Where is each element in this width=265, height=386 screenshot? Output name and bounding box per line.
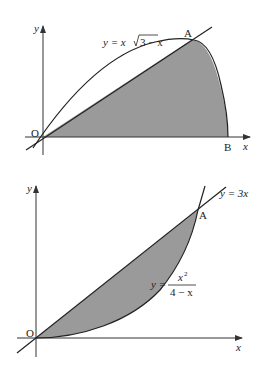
shaded-region-1: [43, 40, 228, 137]
figure-2: y x O A y = 3x y = x 2 4 − x: [17, 182, 248, 357]
point-B-label-1: B: [224, 141, 231, 153]
svg-text:3 − x: 3 − x: [140, 36, 163, 48]
point-A-label-2: A: [199, 209, 207, 221]
y-axis-label-1: y: [33, 22, 39, 34]
diagram-canvas: y x O A B y = x 3 − x y x O A y = 3x y =…: [0, 0, 265, 386]
origin-label-2: O: [26, 327, 34, 339]
svg-text:y = x: y = x: [102, 36, 126, 48]
origin-label-1: O: [31, 127, 39, 139]
figure-1: y x O A B y = x 3 − x: [25, 22, 250, 155]
x-axis-label-1: x: [242, 140, 248, 152]
x-axis-label-2: x: [235, 341, 241, 353]
svg-text:4 − x: 4 − x: [170, 286, 193, 298]
svg-text:2: 2: [184, 270, 188, 278]
point-A-label-1: A: [184, 27, 192, 39]
line-y-3x: [17, 187, 226, 353]
curve-label-1: y = x 3 − x: [102, 35, 163, 48]
y-axis-label-2: y: [26, 182, 32, 194]
svg-text:y =: y =: [150, 278, 166, 290]
svg-text:x: x: [177, 271, 183, 283]
line-label-2: y = 3x: [219, 187, 248, 199]
